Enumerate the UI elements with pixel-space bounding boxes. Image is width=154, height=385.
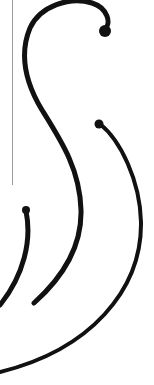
- small-left-arc-stroke: [0, 211, 28, 305]
- large-s-curve-stroke: [25, 1, 108, 303]
- abstract-line-art: [0, 0, 154, 385]
- right-bulb: [95, 120, 104, 129]
- top-bulb: [99, 25, 111, 37]
- left-bulb: [22, 206, 30, 214]
